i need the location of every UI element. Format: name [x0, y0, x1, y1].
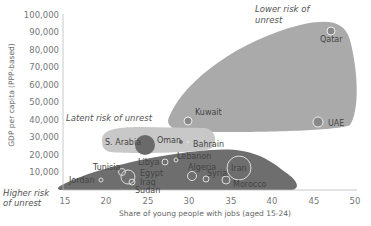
label-saudi-arabia: S. Arabia [105, 138, 141, 147]
y-tick: 80,000 [29, 45, 59, 55]
y-tick: 90,000 [29, 27, 59, 37]
lower-risk-label-line1: Lower risk of [255, 4, 311, 14]
bubble-uae [313, 117, 323, 127]
label-uae: UAE [328, 119, 344, 128]
y-tick-labels: 100,000 90,000 80,000 70,000 60,000 50,0… [24, 10, 59, 177]
label-jordan: Jordan [68, 176, 94, 185]
x-tick: 35 [226, 196, 237, 206]
higher-risk-label-line2: of unrest [3, 198, 42, 208]
x-axis-title: Share of young people with jobs (aged 15… [119, 209, 291, 218]
label-tunisia: Tunisia [92, 163, 120, 172]
y-tick: 30,000 [29, 132, 59, 142]
y-tick: 20,000 [29, 150, 59, 160]
x-tick: 40 [267, 196, 278, 206]
y-tick: 70,000 [29, 62, 59, 72]
label-oman: Oman [157, 136, 181, 145]
bubble-chart: 100,000 90,000 80,000 70,000 60,000 50,0… [0, 0, 371, 226]
label-qatar: Qatar [320, 35, 343, 44]
x-tick: 20 [101, 196, 112, 206]
x-tick: 30 [184, 196, 195, 206]
x-tick: 15 [60, 196, 71, 206]
x-tick: 50 [350, 196, 361, 206]
latent-risk-label: Latent risk of unrest [66, 113, 153, 123]
x-tick: 25 [143, 196, 154, 206]
y-tick: 50,000 [29, 97, 59, 107]
bubble-kuwait [184, 117, 192, 125]
y-tick: 40,000 [29, 115, 59, 125]
label-egypt: Egypt [140, 169, 163, 178]
y-tick: 10,000 [29, 167, 59, 177]
label-iran: Iran [231, 164, 247, 173]
y-tick: 100,000 [24, 10, 59, 20]
bubble-bahrain [187, 141, 189, 143]
x-tick: 45 [309, 196, 320, 206]
lower-risk-label-line2: unrest [255, 15, 283, 25]
label-syria: Syria [207, 169, 227, 178]
bubble-qatar [327, 27, 335, 35]
label-libya: Libya [138, 158, 159, 167]
y-axis-title: GDP per capita (PPP-based) [7, 43, 16, 146]
higher-risk-label-line1: Higher risk [3, 188, 50, 198]
label-sudan: Sudan [135, 186, 160, 195]
y-tick: 60,000 [29, 80, 59, 90]
x-tick-labels: 15 20 25 30 35 40 45 50 [60, 196, 361, 206]
label-lebanon: Lebanon [177, 152, 211, 161]
label-kuwait: Kuwait [195, 108, 222, 117]
label-morocco: Morocco [233, 180, 267, 189]
label-bahrain: Bahrain [193, 140, 224, 149]
